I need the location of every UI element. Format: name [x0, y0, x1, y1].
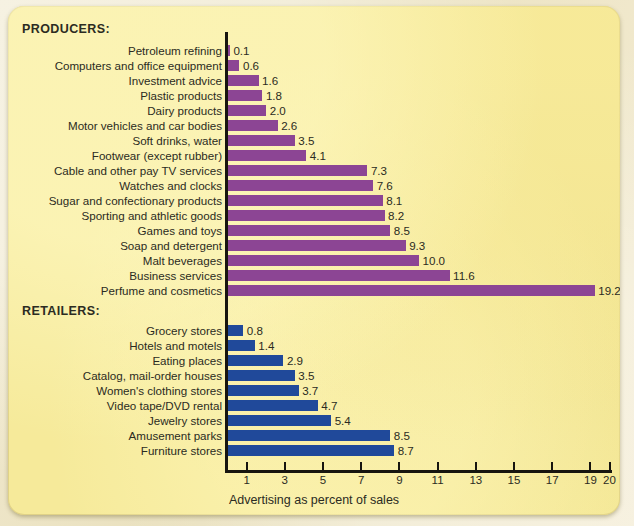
chart-card: PRODUCERS: RETAILERS: 13579111315171920 … — [8, 6, 620, 515]
bar-row: Dairy products2.0 — [8, 103, 620, 118]
bar-category-label: Malt beverages — [143, 253, 222, 268]
bar-row: Petroleum refining0.1 — [8, 43, 620, 58]
bar — [228, 240, 406, 251]
bar-value-label: 2.0 — [270, 103, 286, 118]
bar — [228, 135, 295, 146]
x-tick-label-3: 3 — [282, 474, 288, 486]
bar — [228, 255, 419, 266]
bar-value-label: 1.8 — [266, 88, 282, 103]
bar-value-label: 3.5 — [298, 133, 314, 148]
bar-row: Investment advice1.6 — [8, 73, 620, 88]
x-tick-19 — [589, 462, 591, 471]
bar-category-label: Jewelry stores — [148, 413, 222, 428]
bar-row: Cable and other pay TV services7.3 — [8, 163, 620, 178]
bar-category-label: Petroleum refining — [128, 43, 222, 58]
bar-value-label: 4.7 — [321, 398, 337, 413]
x-tick-label-17: 17 — [546, 474, 559, 486]
bar — [228, 430, 390, 441]
bar-value-label: 3.7 — [302, 383, 318, 398]
bar — [228, 445, 394, 456]
bar-category-label: Catalog, mail-order houses — [83, 368, 222, 383]
bar-value-label: 2.9 — [287, 353, 303, 368]
bar-row: Video tape/DVD rental4.7 — [8, 398, 620, 413]
bar-category-label: Furniture stores — [141, 443, 222, 458]
bar-row: Grocery stores0.8 — [8, 323, 620, 338]
bar-value-label: 1.4 — [258, 338, 274, 353]
bar — [228, 105, 266, 116]
x-tick-label-5: 5 — [320, 474, 326, 486]
bar-category-label: Soft drinks, water — [132, 133, 222, 148]
bar-category-label: Computers and office equipment — [55, 58, 222, 73]
bar-category-label: Cable and other pay TV services — [54, 163, 222, 178]
x-tick-11 — [437, 462, 439, 471]
bar-row: Motor vehicles and car bodies2.6 — [8, 118, 620, 133]
producers-section-heading: PRODUCERS: — [22, 22, 110, 36]
bar — [228, 400, 318, 411]
bar-category-label: Women's clothing stores — [96, 383, 222, 398]
bar-row: Sugar and confectionary products8.1 — [8, 193, 620, 208]
bar-row: Plastic products1.8 — [8, 88, 620, 103]
bar-row: Women's clothing stores3.7 — [8, 383, 620, 398]
x-tick-17 — [551, 462, 553, 471]
bar-category-label: Investment advice — [129, 73, 222, 88]
bar — [228, 150, 306, 161]
bar-category-label: Plastic products — [140, 88, 222, 103]
x-tick-label-9: 9 — [396, 474, 402, 486]
bar — [228, 385, 299, 396]
bar — [228, 285, 595, 296]
retailers-section-heading: RETAILERS: — [22, 304, 100, 318]
bar-row: Soft drinks, water3.5 — [8, 133, 620, 148]
bar-category-label: Dairy products — [147, 103, 222, 118]
bar-value-label: 1.6 — [262, 73, 278, 88]
bar-category-label: Sporting and athletic goods — [81, 208, 222, 223]
bar — [228, 60, 239, 71]
bar — [228, 340, 255, 351]
bar-value-label: 8.5 — [394, 223, 410, 238]
bar-value-label: 2.6 — [281, 118, 297, 133]
bar — [228, 210, 385, 221]
x-tick-label-1: 1 — [243, 474, 249, 486]
bar — [228, 180, 373, 191]
bar-row: Jewelry stores5.4 — [8, 413, 620, 428]
bar-category-label: Watches and clocks — [119, 178, 222, 193]
bar-value-label: 4.1 — [310, 148, 326, 163]
bar-category-label: Grocery stores — [146, 323, 222, 338]
bar-value-label: 8.2 — [388, 208, 404, 223]
bar-category-label: Video tape/DVD rental — [107, 398, 222, 413]
bar — [228, 120, 278, 131]
bar-value-label: 0.6 — [243, 58, 259, 73]
bar — [228, 270, 450, 281]
x-tick-20 — [609, 462, 611, 471]
bar-value-label: 11.6 — [453, 268, 475, 283]
bar-row: Furniture stores8.7 — [8, 443, 620, 458]
bar-row: Soap and detergent9.3 — [8, 238, 620, 253]
bar-category-label: Games and toys — [138, 223, 222, 238]
bar-row: Amusement parks8.5 — [8, 428, 620, 443]
bar — [228, 325, 243, 336]
x-tick-15 — [513, 462, 515, 471]
bar — [228, 370, 295, 381]
bar-value-label: 8.1 — [386, 193, 402, 208]
bar-value-label: 3.5 — [298, 368, 314, 383]
bar-value-label: 9.3 — [409, 238, 425, 253]
bar-row: Eating places2.9 — [8, 353, 620, 368]
bar-category-label: Sugar and confectionary products — [49, 193, 222, 208]
bar-row: Catalog, mail-order houses3.5 — [8, 368, 620, 383]
bar-value-label: 0.1 — [233, 43, 249, 58]
bar-row: Footwear (except rubber)4.1 — [8, 148, 620, 163]
bar — [228, 75, 259, 86]
bar-row: Hotels and motels1.4 — [8, 338, 620, 353]
x-tick-label-15: 15 — [508, 474, 521, 486]
x-tick-label-13: 13 — [469, 474, 482, 486]
x-tick-label-7: 7 — [358, 474, 364, 486]
bar-category-label: Eating places — [152, 353, 222, 368]
x-tick-1 — [246, 462, 248, 471]
bar-category-label: Perfume and cosmetics — [101, 283, 222, 298]
bar-value-label: 8.7 — [398, 443, 414, 458]
bar-row: Watches and clocks7.6 — [8, 178, 620, 193]
bar-category-label: Footwear (except rubber) — [92, 148, 222, 163]
x-tick-label-19: 19 — [584, 474, 597, 486]
bar-row: Perfume and cosmetics19.2 — [8, 283, 620, 298]
bar-category-label: Hotels and motels — [129, 338, 222, 353]
bar — [228, 90, 262, 101]
